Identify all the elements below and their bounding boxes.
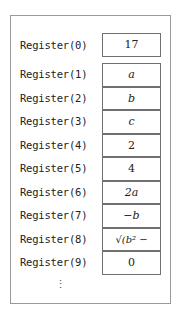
register-label-3: Register(3) [20,110,100,133]
register-label-6: Register(6) [20,181,100,204]
register-label-5: Register(5) [20,157,100,180]
register-label-2: Register(2) [20,87,100,110]
register-cell-6: 2a [102,181,161,205]
continuation-ellipsis: ⋮ [55,283,65,287]
register-cell-7: −b [102,204,161,228]
register-cell-4: 2 [102,134,161,158]
register-cell-3: c [102,110,161,134]
register-label-4: Register(4) [20,134,100,157]
register-label-0: Register(0) [20,34,100,57]
register-label-9: Register(9) [20,251,100,274]
register-label-1: Register(1) [20,63,100,86]
register-cell-0: 17 [102,33,161,57]
register-cell-5: 4 [102,157,161,181]
register-cell-2: b [102,87,161,111]
register-cell-8: √(b² − 4ac) [102,228,161,252]
register-cell-1: a [102,63,161,87]
register-cell-9: 0 [102,251,161,275]
register-label-8: Register(8) [20,228,100,251]
register-label-7: Register(7) [20,204,100,227]
